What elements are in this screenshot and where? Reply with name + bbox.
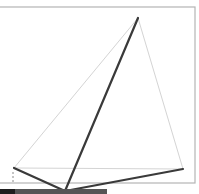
light-edge [14,18,138,168]
bottom-bar [0,189,107,194]
dark-edge [14,168,65,191]
dark-edges [14,18,183,191]
light-edge [138,18,183,169]
bottom-bar-dark-segment [0,189,15,194]
light-edge [14,168,183,169]
light-edges [14,18,183,169]
dark-edge [65,18,138,191]
geometry-diagram [0,0,199,194]
dark-edge [65,169,183,191]
diagram-frame [0,7,195,183]
